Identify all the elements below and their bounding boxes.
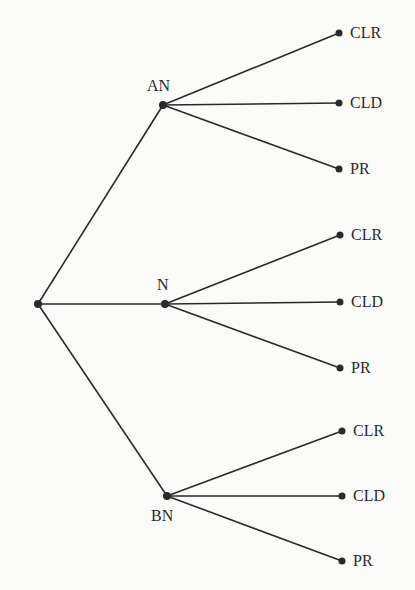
branch-node-an: [159, 101, 167, 109]
leaf-node-pr: [337, 365, 344, 372]
edge-bn-pr: [167, 496, 342, 561]
leaf-node-clr: [339, 428, 346, 435]
branch-label-bn: BN: [151, 508, 173, 524]
edge-an-pr: [163, 105, 339, 169]
leaf-label-pr: PR: [353, 553, 373, 569]
leaf-label-pr: PR: [351, 360, 371, 376]
edge-bn-clr: [167, 431, 342, 496]
leaf-node-cld: [339, 493, 346, 500]
leaf-node-clr: [336, 30, 343, 37]
leaf-node-pr: [336, 166, 343, 173]
branch-node-bn: [163, 492, 171, 500]
edge-n-cld: [165, 302, 340, 304]
edge-root-an: [38, 105, 163, 304]
edge-n-pr: [165, 304, 340, 368]
branch-node-n: [161, 300, 169, 308]
edge-root-bn: [38, 304, 167, 496]
leaf-node-pr: [339, 558, 346, 565]
leaf-label-cld: CLD: [353, 488, 385, 504]
edge-an-clr: [163, 33, 339, 105]
leaf-node-clr: [337, 232, 344, 239]
leaf-node-cld: [337, 299, 344, 306]
leaf-label-clr: CLR: [350, 25, 381, 41]
leaf-label-pr: PR: [350, 161, 370, 177]
branch-label-an: AN: [147, 78, 170, 94]
branch-label-n: N: [157, 277, 169, 293]
edge-an-cld: [163, 103, 339, 105]
edge-n-clr: [165, 235, 340, 304]
leaf-label-cld: CLD: [351, 294, 383, 310]
root-node: [34, 300, 42, 308]
leaf-label-cld: CLD: [350, 95, 382, 111]
leaf-label-clr: CLR: [351, 227, 382, 243]
leaf-label-clr: CLR: [353, 423, 384, 439]
leaf-node-cld: [336, 100, 343, 107]
